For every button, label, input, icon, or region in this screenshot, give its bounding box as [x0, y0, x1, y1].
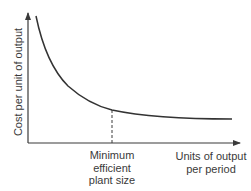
mes-label-line-2: efficient	[89, 162, 135, 175]
y-axis-label: Cost per unit of output	[12, 28, 24, 136]
min-efficient-plant-size-label: Minimum efficient plant size	[89, 149, 135, 187]
x-axis-label-line-1: Units of output	[176, 150, 247, 163]
x-axis-label-line-2: per period	[176, 163, 247, 176]
average-cost-curve	[36, 16, 232, 119]
mes-label-line-1: Minimum	[89, 149, 135, 162]
mes-label-line-3: plant size	[89, 174, 135, 187]
x-axis-label: Units of output per period	[176, 150, 247, 175]
